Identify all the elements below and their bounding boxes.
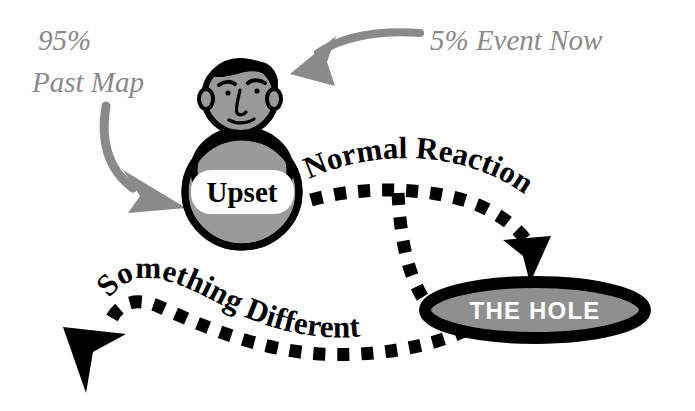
diagram-canvas: 95% Past Map 5% Event Now Upset Normal R… <box>0 0 695 411</box>
past-map-percent: 95% <box>38 24 91 56</box>
normal-reaction-dashed-path <box>311 190 551 283</box>
figure-head <box>199 59 281 134</box>
event-now-arrow <box>290 32 420 86</box>
the-hole-label: THE HOLE <box>470 297 601 324</box>
past-map-text: Past Map <box>31 66 144 98</box>
diagram-svg: 95% Past Map 5% Event Now Upset Normal R… <box>0 0 695 411</box>
past-map-arrow <box>104 106 186 213</box>
upset-label: Upset <box>207 176 278 208</box>
event-now-text: 5% Event Now <box>430 24 603 56</box>
